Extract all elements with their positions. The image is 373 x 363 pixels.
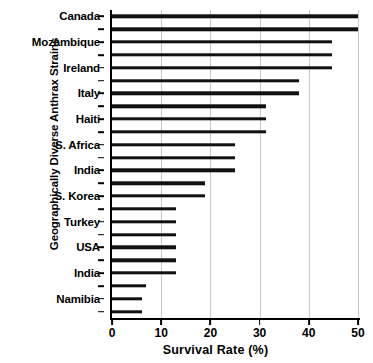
y-tick-mark [98,259,104,261]
y-tick-label: Mozambique [32,36,100,48]
y-tick-label: S. Korea [55,190,100,202]
bar [112,297,142,300]
y-tick-mark [98,234,104,236]
y-tick-label: USA [76,241,100,253]
bar [112,156,235,159]
x-tick-label: 0 [109,326,116,340]
y-tick-label: Turkey [64,216,100,228]
gridline [358,10,359,318]
x-tick-mark [160,320,162,325]
y-tick-mark [98,285,104,287]
bar [112,271,176,274]
bar [112,105,266,108]
y-tick-mark [98,131,104,133]
bar [112,143,235,146]
bar [112,169,235,172]
bar [112,246,176,249]
bar [112,130,266,133]
bar [112,79,299,82]
bar [112,40,332,43]
bar [112,194,205,197]
y-tick-label: Namibia [56,293,100,305]
y-tick-mark [98,157,104,159]
bar [112,182,205,185]
bar [112,92,299,95]
bar [112,15,358,18]
bar [112,28,358,31]
x-tick-label: 40 [302,326,315,340]
y-tick-label: Ireland [63,62,100,74]
bar [112,66,332,69]
y-tick-mark [98,182,104,184]
x-tick-mark [209,320,211,325]
x-tick-mark [308,320,310,325]
y-axis-tick-labels: CanadaMozambiqueIrelandItalyHaitiS. Afri… [0,0,104,363]
x-tick-mark [259,320,261,325]
y-tick-label: Haiti [76,113,100,125]
y-tick-label: Italy [78,87,100,99]
x-tick-label: 10 [155,326,168,340]
x-axis-ticks: 01020304050 [0,320,373,340]
y-tick-mark [98,311,104,313]
x-tick-mark [111,320,113,325]
y-tick-mark [98,54,104,56]
bar [112,117,266,120]
plot-area [112,10,358,318]
y-tick-mark [98,80,104,82]
x-tick-label: 30 [253,326,266,340]
y-tick-mark [98,105,104,107]
y-tick-label: S. Africa [55,139,100,151]
x-tick-label: 50 [351,326,364,340]
y-tick-label: India [74,267,100,279]
y-tick-label: India [74,164,100,176]
x-tick-label: 20 [204,326,217,340]
y-tick-mark [98,28,104,30]
bar [112,284,146,287]
x-tick-mark [357,320,359,325]
x-axis-title: Survival Rate (%) [0,343,373,357]
bar [112,220,176,223]
y-tick-mark [98,208,104,210]
bar [112,259,176,262]
bar [112,310,142,313]
bar [112,207,176,210]
bar-chart: Geographically Diverse Anthrax Strains C… [0,0,373,363]
bar [112,233,176,236]
bar [112,53,332,56]
x-axis-title-text: Survival Rate (%) [163,343,269,357]
y-tick-label: Canada [59,10,100,22]
